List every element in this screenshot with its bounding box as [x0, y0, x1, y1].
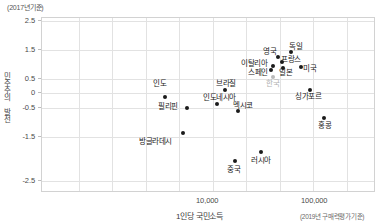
x-axis-tick-label: 100,000 [301, 196, 327, 205]
data-point[interactable] [322, 116, 326, 120]
data-point[interactable] [223, 88, 227, 92]
x-axis-note: (2019년 구매력평가기준) [300, 211, 364, 221]
gridline-vertical [313, 18, 314, 191]
gridline-horizontal [42, 108, 374, 109]
data-point[interactable] [259, 150, 263, 154]
unit-note: (2017년기준) [7, 2, 43, 12]
data-point-label: 브라질 [216, 80, 236, 88]
gridline-horizontal [42, 50, 374, 51]
data-point-label: 홍콩 [318, 122, 331, 130]
data-point-label: 이탈리아 [241, 60, 267, 68]
data-point-label: 한국 [266, 80, 279, 88]
gridline-vertical [213, 18, 214, 191]
data-point-label: 필리핀 [158, 103, 178, 111]
gridline-vertical [146, 18, 147, 191]
gridline-vertical [347, 18, 348, 191]
data-point[interactable] [163, 95, 167, 99]
x-axis-tick-label: 10,000 [196, 196, 218, 205]
gridline-horizontal [42, 137, 374, 138]
y-axis-tick-label: 2.5 [13, 16, 35, 25]
plot-area: 인도필리핀방글라데시인도네시아브라질멕시코중국러시아이탈리아스페인영국프랑스독일… [41, 17, 375, 192]
data-point-label: 스페인 [248, 69, 268, 77]
gridline-vertical [280, 18, 281, 191]
data-point-label: 중국 [227, 166, 240, 174]
data-point-label: 영국 [263, 48, 276, 56]
data-point-label: 독일 [289, 43, 302, 51]
gridline-horizontal [42, 21, 374, 22]
y-axis-tick-label: -1.5 [13, 132, 35, 141]
gridline-horizontal [42, 181, 374, 182]
data-point[interactable] [276, 55, 280, 59]
y-axis-tick-label: 0.5 [13, 74, 35, 83]
y-axis-tick-label: 0 [13, 88, 35, 97]
data-point[interactable] [185, 106, 189, 110]
data-point-label: 싱가포르 [295, 93, 321, 101]
data-point[interactable] [233, 159, 237, 163]
chart-root: (2017년기준) 민주주의 발전 2.51.50.50-0.5-1.5-2.5… [0, 0, 379, 223]
y-axis-tick-label: -2.5 [13, 176, 35, 185]
data-point-label: 일본 [279, 69, 292, 77]
gridline-horizontal [42, 79, 374, 80]
y-axis-tick-label: 1.5 [13, 45, 35, 54]
data-point[interactable] [269, 68, 273, 72]
x-axis-title: 1인당 국민소득 [176, 210, 223, 221]
data-point-label: 멕시코 [233, 102, 253, 110]
gridline-vertical [79, 18, 80, 191]
data-point-label: 방글라데시 [139, 138, 172, 146]
data-point[interactable] [215, 102, 219, 106]
data-point-label: 러시아 [251, 157, 271, 165]
gridline-vertical [112, 18, 113, 191]
data-point-label: 인도네시아 [203, 94, 236, 102]
y-axis-tick-label: -0.5 [13, 103, 35, 112]
data-point-label: 프랑스 [281, 56, 301, 64]
data-point-label: 인도 [153, 80, 166, 88]
gridline-vertical [179, 18, 180, 191]
data-point-label: 미국 [303, 65, 316, 73]
y-axis-title: 민주주의 발전 [1, 72, 9, 122]
data-point[interactable] [181, 131, 185, 135]
